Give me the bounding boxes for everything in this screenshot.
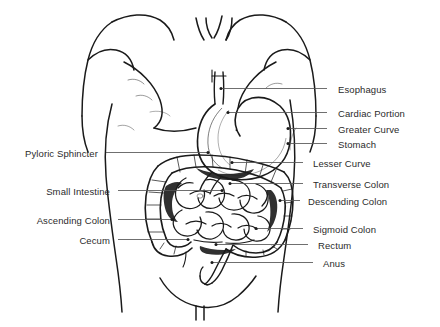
- label-lesser-curve: Lesser Curve: [313, 158, 371, 169]
- leader-endpoint-transverse-colon: [229, 182, 232, 185]
- label-small-intestine: Small Intestine: [0, 186, 110, 197]
- anatomy-illustration: [0, 0, 440, 327]
- leader-endpoint-ascending-colon: [171, 218, 174, 221]
- leader-endpoint-cardiac-portion: [227, 111, 230, 114]
- leader-endpoint-anus: [211, 261, 214, 264]
- leader-endpoint-pyloric-sphincter: [207, 151, 210, 154]
- label-ascending-colon: Ascending Colon: [0, 215, 110, 226]
- leader-endpoint-stomach: [287, 142, 290, 145]
- label-greater-curve: Greater Curve: [338, 124, 400, 135]
- leader-endpoint-descending-colon: [279, 199, 282, 202]
- leader-endpoint-lesser-curve: [231, 161, 234, 164]
- label-descending-colon: Descending Colon: [308, 196, 387, 207]
- leader-endpoint-greater-curve: [287, 127, 290, 130]
- leader-endpoint-cecum: [187, 238, 190, 241]
- label-transverse-colon: Transverse Colon: [313, 179, 389, 190]
- label-cardiac-portion: Cardiac Portion: [338, 108, 405, 119]
- label-cecum: Cecum: [0, 235, 110, 246]
- label-sigmoid-colon: Sigmoid Colon: [313, 224, 376, 235]
- leader-endpoint-rectum: [215, 243, 218, 246]
- label-stomach: Stomach: [338, 139, 376, 150]
- label-anus: Anus: [323, 258, 345, 269]
- leader-endpoint-esophagus: [220, 87, 223, 90]
- label-rectum: Rectum: [318, 240, 351, 251]
- leader-endpoint-sigmoid-colon: [255, 227, 258, 230]
- label-esophagus: Esophagus: [338, 84, 386, 95]
- diagram-canvas: EsophagusCardiac PortionGreater CurveSto…: [0, 0, 440, 327]
- label-pyloric-sphincter: Pyloric Sphincter: [0, 148, 98, 159]
- leader-endpoint-small-intestine: [221, 189, 224, 192]
